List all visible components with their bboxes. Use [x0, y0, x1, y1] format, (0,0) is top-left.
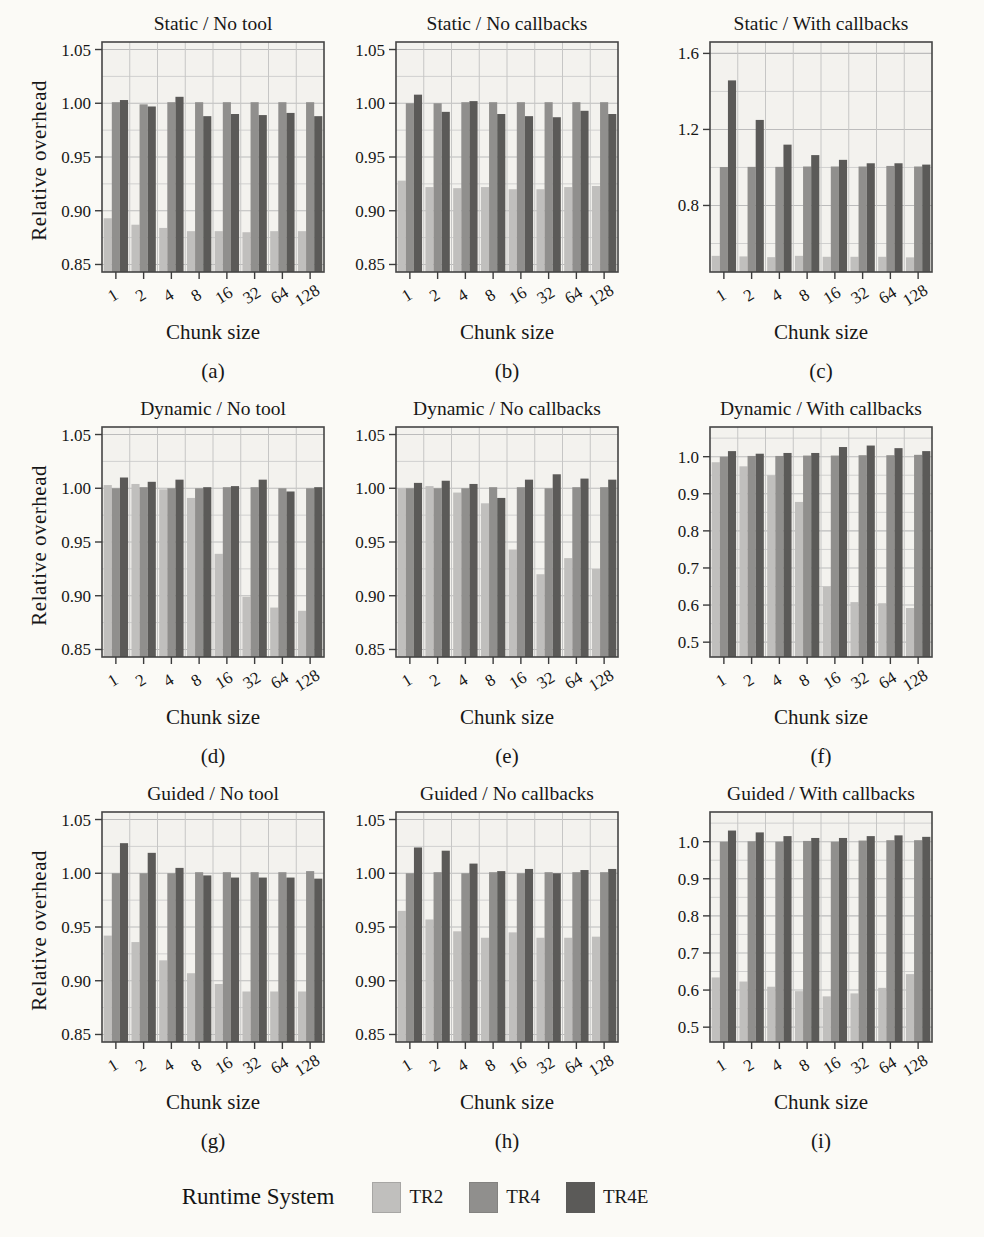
- bar-tr2-chunk2: [425, 486, 433, 657]
- plot: Dynamic / With callbacks0.50.60.70.80.91…: [660, 395, 936, 775]
- bar-tr4e-chunk64: [286, 113, 294, 272]
- bar-tr2-chunk16: [215, 231, 223, 272]
- bar-tr2-chunk32: [850, 602, 858, 657]
- bar-tr4e-chunk4: [469, 864, 477, 1042]
- bar-tr4-chunk1: [406, 103, 414, 272]
- bar-tr2-chunk1: [104, 485, 112, 657]
- y-tick-label: 1.05: [355, 811, 385, 830]
- bar-tr4-chunk8: [489, 872, 497, 1042]
- legend-label: TR4E: [603, 1186, 648, 1208]
- chart-title: Guided / No callbacks: [420, 783, 594, 804]
- x-tick-label: 16: [820, 1053, 844, 1078]
- bar-tr4-chunk32: [859, 841, 867, 1042]
- bar-tr4-chunk1: [720, 842, 728, 1042]
- x-tick-label: 4: [454, 285, 472, 306]
- bar-tr4-chunk16: [223, 487, 231, 657]
- bar-tr4-chunk2: [748, 456, 756, 657]
- bar-tr4e-chunk64: [894, 448, 902, 657]
- bar-tr4e-chunk128: [922, 837, 930, 1042]
- x-tick-label: 8: [796, 1055, 813, 1076]
- bar-tr2-chunk32: [850, 257, 858, 272]
- y-tick-label: 0.8: [678, 522, 699, 541]
- bar-tr4e-chunk2: [148, 853, 156, 1042]
- x-tick-label: 4: [454, 1055, 472, 1076]
- bar-tr4e-chunk32: [867, 163, 875, 272]
- chart-title: Dynamic / No tool: [140, 398, 286, 419]
- legend-swatch-tr4: [469, 1182, 498, 1213]
- bar-tr4-chunk16: [517, 487, 525, 657]
- bar-tr2-chunk1: [398, 911, 406, 1042]
- bar-tr2-chunk64: [878, 988, 886, 1042]
- bar-tr2-chunk4: [767, 987, 775, 1042]
- bar-tr4e-chunk8: [811, 453, 819, 657]
- chart-title: Static / No callbacks: [427, 13, 588, 34]
- chart-caption: (c): [809, 359, 832, 383]
- bar-tr4e-chunk8: [497, 114, 505, 272]
- bar-tr4-chunk128: [600, 872, 608, 1042]
- bar-tr2-chunk1: [398, 181, 406, 272]
- bar-tr4-chunk16: [517, 102, 525, 272]
- y-tick-label: 0.5: [678, 633, 699, 652]
- y-axis: 0.50.60.70.80.91.0: [678, 448, 710, 652]
- chart-panel-b: Relative overhead Static / No callbacks0…: [346, 10, 646, 395]
- bar-tr2-chunk4: [159, 228, 167, 272]
- x-tick-label: 8: [482, 285, 499, 306]
- y-tick-label: 0.85: [61, 1025, 91, 1044]
- bar-tr2-chunk2: [131, 942, 139, 1042]
- y-axis: 0.81.21.6: [678, 44, 710, 215]
- bar-tr4e-chunk2: [442, 851, 450, 1042]
- bar-tr2-chunk128: [298, 611, 306, 657]
- x-tick-label: 32: [533, 668, 557, 693]
- bar-tr4-chunk2: [140, 873, 148, 1042]
- bar-tr2-chunk128: [592, 569, 600, 657]
- x-tick-label: 64: [561, 668, 586, 693]
- bar-tr2-chunk8: [795, 256, 803, 272]
- chart-panel-a: Relative overhead Static / No tool0.850.…: [26, 10, 332, 395]
- y-tick-label: 0.85: [355, 1025, 385, 1044]
- x-tick-label: 128: [585, 281, 617, 311]
- bar-tr2-chunk8: [187, 973, 195, 1042]
- x-axis: 1248163264128: [398, 1042, 617, 1080]
- x-tick-label: 4: [768, 1055, 786, 1076]
- bar-tr2-chunk8: [795, 502, 803, 657]
- bar-tr4e-chunk16: [525, 869, 533, 1042]
- bar-tr2-chunk32: [536, 574, 544, 657]
- y-tick-label: 1.00: [355, 94, 385, 113]
- bar-tr4e-chunk32: [553, 873, 561, 1042]
- bar-tr4e-chunk128: [608, 480, 616, 657]
- chart-title: Guided / With callbacks: [727, 783, 915, 804]
- chart-panel-g: Relative overhead Guided / No tool0.850.…: [26, 780, 332, 1165]
- x-tick-label: 16: [820, 668, 844, 693]
- bar-tr2-chunk4: [767, 257, 775, 272]
- x-tick-label: 64: [875, 668, 900, 693]
- bar-tr4-chunk1: [112, 102, 120, 272]
- bar-tr2-chunk1: [712, 977, 720, 1042]
- x-tick-label: 4: [160, 285, 178, 306]
- x-tick-label: 2: [132, 285, 149, 306]
- bar-tr2-chunk64: [878, 603, 886, 657]
- bar-tr4e-chunk8: [497, 498, 505, 657]
- bar-tr4-chunk32: [251, 102, 259, 272]
- bar-tr4e-chunk1: [728, 80, 736, 272]
- bar-tr4-chunk8: [195, 102, 203, 272]
- bar-tr2-chunk128: [906, 608, 914, 657]
- bar-tr4-chunk16: [831, 167, 839, 273]
- bar-tr2-chunk4: [767, 475, 775, 657]
- x-tick-label: 8: [796, 285, 813, 306]
- bar-tr4e-chunk8: [203, 487, 211, 657]
- y-tick-label: 1.00: [355, 864, 385, 883]
- bar-tr4-chunk64: [572, 872, 580, 1042]
- bar-tr4e-chunk128: [922, 451, 930, 657]
- x-axis-title: Chunk size: [774, 1090, 868, 1114]
- chart-caption: (g): [201, 1129, 226, 1153]
- chart-panel-e: Relative overhead Dynamic / No callbacks…: [346, 395, 646, 780]
- plot: Guided / With callbacks0.50.60.70.80.91.…: [660, 780, 936, 1160]
- bar-tr2-chunk16: [509, 189, 517, 272]
- bar-tr4e-chunk4: [175, 97, 183, 272]
- y-tick-label: 1.6: [678, 44, 699, 63]
- bar-tr4e-chunk1: [414, 847, 422, 1042]
- bar-tr4e-chunk128: [314, 879, 322, 1042]
- bar-tr2-chunk128: [592, 186, 600, 272]
- bar-tr2-chunk4: [453, 493, 461, 657]
- bar-tr4-chunk128: [914, 167, 922, 273]
